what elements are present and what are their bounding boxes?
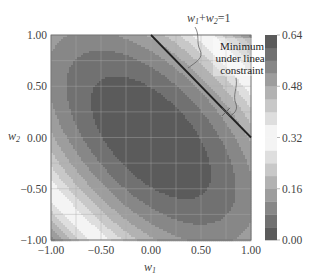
svg-text:−1.00: −1.00 xyxy=(20,234,47,246)
svg-text:0.48: 0.48 xyxy=(282,80,302,92)
svg-text:1.00: 1.00 xyxy=(27,29,47,41)
annotation-line-3: constraint xyxy=(220,64,263,76)
svg-text:0.00: 0.00 xyxy=(141,244,161,256)
svg-text:0.00: 0.00 xyxy=(282,234,302,246)
minimum-annotation: Minimum under linear constraint xyxy=(213,38,271,76)
svg-text:−0.50: −0.50 xyxy=(88,244,115,256)
svg-text:−0.50: −0.50 xyxy=(20,183,47,195)
svg-text:1.00: 1.00 xyxy=(241,244,261,256)
svg-text:0.64: 0.64 xyxy=(282,29,302,41)
annotation-line-1: Minimum xyxy=(220,40,264,52)
svg-text:0.00: 0.00 xyxy=(27,132,47,144)
colorbar-ticks: 0.000.160.320.480.64 xyxy=(277,29,302,246)
colorbar xyxy=(265,35,277,240)
constraint-label: w1+w2=1 xyxy=(187,11,231,26)
svg-text:0.16: 0.16 xyxy=(282,183,302,195)
x-axis-ticks: −1.00−0.500.000.501.00 xyxy=(38,244,262,256)
y-axis-label: w2 xyxy=(8,129,20,144)
annotation-line-2: under linear xyxy=(216,52,269,64)
y-axis-ticks: −1.00−0.500.000.501.00 xyxy=(20,29,47,246)
svg-text:0.50: 0.50 xyxy=(27,80,47,92)
contour-figure: −1.00−0.500.000.501.00 −1.00−0.500.000.5… xyxy=(0,0,312,279)
svg-text:0.32: 0.32 xyxy=(282,132,302,144)
svg-text:0.50: 0.50 xyxy=(191,244,211,256)
x-axis-label: w1 xyxy=(144,260,156,275)
